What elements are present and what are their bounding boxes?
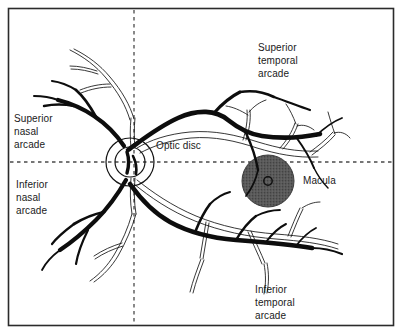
- figure-border: [9, 9, 394, 326]
- label-inferior-temporal-arcade: Inferior temporal arcade: [255, 283, 295, 322]
- macula-shape: [242, 155, 294, 207]
- label-optic-disc: Optic disc: [156, 139, 201, 152]
- label-inferior-nasal-arcade: Inferior nasal arcade: [16, 178, 48, 217]
- label-macula: Macula: [303, 174, 336, 187]
- label-superior-temporal-arcade: Superior temporal arcade: [258, 41, 298, 80]
- label-superior-nasal-arcade: Superior nasal arcade: [14, 112, 53, 151]
- retinal-diagram-figure: Superior nasal arcade Inferior nasal arc…: [0, 0, 402, 334]
- fundus-illustration: [0, 0, 402, 334]
